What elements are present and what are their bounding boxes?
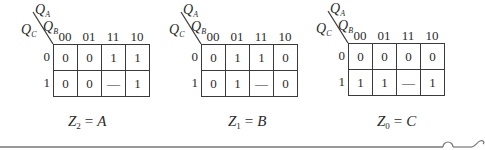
kmap-cell: 0 <box>54 45 78 71</box>
row-header: 0 <box>188 50 198 64</box>
col-header: 01 <box>372 29 396 43</box>
kmap-cell: 1 <box>226 71 250 97</box>
col-header: 00 <box>53 30 77 44</box>
row-header: 1 <box>335 75 345 89</box>
col-header: 01 <box>225 30 249 44</box>
kmap-cell: 0 <box>78 71 102 97</box>
kmap-cell: — <box>397 70 421 96</box>
kmap-cell: 1 <box>226 45 250 71</box>
kmap-cell: 0 <box>202 71 226 97</box>
kmap-grid: 0 0 0 0 1 1 — 1 <box>348 43 445 96</box>
kmap-cell: 0 <box>349 44 373 70</box>
kmap-cell: 1 <box>126 71 150 97</box>
kmap-cell: 1 <box>126 45 150 71</box>
kmap-cell: 0 <box>397 44 421 70</box>
col-header: 11 <box>396 29 420 43</box>
col-header: 00 <box>201 30 225 44</box>
col-header: 10 <box>125 30 149 44</box>
kmap-row: 0 1 — 0 <box>202 71 298 97</box>
kmap-z2: QA QB QC 00 01 11 10 0 1 0 0 1 1 0 0 — 1 <box>0 0 160 110</box>
kmap-cell: — <box>250 71 274 97</box>
col-header: 01 <box>77 30 101 44</box>
equation-z1: Z1=B <box>228 113 266 131</box>
label-qc: QC <box>169 23 184 42</box>
col-header: 10 <box>273 30 297 44</box>
label-qc: QC <box>21 23 36 42</box>
kmap-cell: 1 <box>373 70 397 96</box>
col-header: 11 <box>249 30 273 44</box>
kmap-cell: 1 <box>349 70 373 96</box>
kmap-grid: 0 1 1 0 0 1 — 0 <box>201 44 298 97</box>
kmap-z1: QA QB QC 00 01 11 10 0 1 0 1 1 0 0 1 — 0 <box>148 0 308 110</box>
row-header: 0 <box>40 50 50 64</box>
kmap-cell: 0 <box>274 71 298 97</box>
decorative-footer-rule <box>0 140 485 150</box>
kmap-row: 0 0 1 1 <box>54 45 150 71</box>
kmap-cell: — <box>102 71 126 97</box>
col-header: 11 <box>101 30 125 44</box>
kmap-cell: 1 <box>421 70 445 96</box>
equation-z0: Z0=C <box>377 113 416 131</box>
kmap-row: 0 1 1 0 <box>202 45 298 71</box>
kmap-row: 1 1 — 1 <box>349 70 445 96</box>
kmap-cell: 0 <box>202 45 226 71</box>
row-header: 1 <box>40 76 50 90</box>
kmap-grid: 0 0 1 1 0 0 — 1 <box>53 44 150 97</box>
row-header: 1 <box>188 76 198 90</box>
equation-z2: Z2=A <box>68 113 106 131</box>
kmap-cell: 1 <box>250 45 274 71</box>
kmap-cell: 1 <box>102 45 126 71</box>
kmap-cell: 0 <box>54 71 78 97</box>
kmap-z0: QA QB QC 00 01 11 10 0 1 0 0 0 0 1 1 — 1 <box>295 0 455 110</box>
label-qc: QC <box>316 22 331 41</box>
kmap-row: 0 0 — 1 <box>54 71 150 97</box>
kmap-cell: 0 <box>78 45 102 71</box>
kmap-cell: 0 <box>421 44 445 70</box>
col-header: 10 <box>420 29 444 43</box>
kmap-row: 0 0 0 0 <box>349 44 445 70</box>
col-header: 00 <box>348 29 372 43</box>
kmap-cell: 0 <box>373 44 397 70</box>
row-header: 0 <box>335 49 345 63</box>
kmap-cell: 0 <box>274 45 298 71</box>
